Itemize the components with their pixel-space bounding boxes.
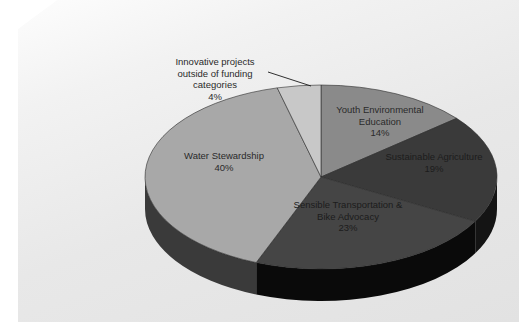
pie-slice-label-line: Youth Environmental	[336, 104, 423, 115]
pie-slice-label-line: Sensible Transportation &	[294, 199, 403, 210]
pie-slice-label-line: Bike Advocacy	[317, 210, 379, 221]
pie-slice-label-line: 23%	[338, 222, 358, 233]
pie-slice-label-line: outside of funding	[177, 67, 252, 78]
pie-slice-label-line: Innovative projects	[175, 56, 254, 67]
label-leader-line	[268, 72, 311, 86]
pie-slice-label-line: Water Stewardship	[184, 150, 264, 161]
pie-slice-label-line: Education	[359, 115, 401, 126]
pie-slices	[145, 85, 497, 269]
chart-page: Youth EnvironmentalEducation14%Sustainab…	[0, 0, 519, 322]
pie-slice-label-line: categories	[193, 79, 237, 90]
pie-slice-label-line: 40%	[214, 161, 234, 172]
pie-slice-label-line: 19%	[424, 162, 444, 173]
pie-slice-label-line: Sustainable Agriculture	[385, 151, 482, 162]
pie-leader-lines	[268, 72, 311, 86]
pie-slice-label-line: 14%	[370, 127, 390, 138]
pie-slice-label-line: 4%	[208, 90, 222, 101]
pie-chart: Youth EnvironmentalEducation14%Sustainab…	[0, 0, 519, 322]
